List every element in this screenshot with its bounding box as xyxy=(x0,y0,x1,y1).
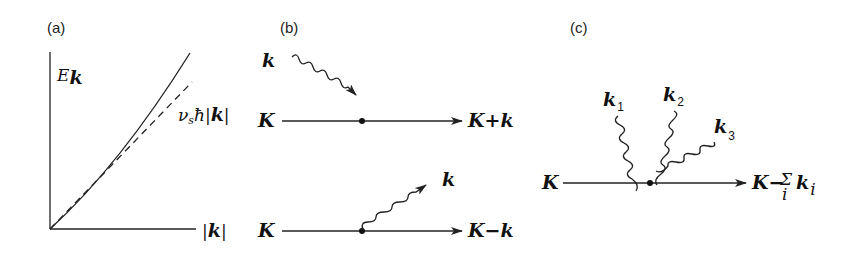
phonon-k2-wave xyxy=(656,111,677,185)
panel-b: (b) k K K+k K k K−k xyxy=(257,19,514,241)
electron-in-label: K xyxy=(257,219,276,241)
phonon-out-label: k xyxy=(442,168,455,190)
emission-vertex: K k K−k xyxy=(257,168,514,241)
phonon-k3-label: k3 xyxy=(714,115,735,143)
panel-a-label: (a) xyxy=(47,19,65,36)
asymptote-label: νsħ|k| xyxy=(178,103,230,127)
phonon-k2-label: k2 xyxy=(663,83,684,109)
phonon-in-wave xyxy=(292,55,356,95)
diagram-canvas: (a) Ek |k| νsħ|k| (b) k K K+k K k K−k xyxy=(0,0,854,259)
vertex-dot xyxy=(647,180,653,186)
phonon-out-wave xyxy=(362,185,426,230)
phonon-k1-label: k1 xyxy=(603,88,624,114)
electron-in-label: K xyxy=(541,171,560,193)
panel-b-label: (b) xyxy=(280,19,298,36)
panel-c-label: (c) xyxy=(570,19,588,36)
y-axis-label: Ek xyxy=(56,65,83,88)
panel-a: (a) Ek |k| νsħ|k| xyxy=(47,19,230,241)
linear-asymptote xyxy=(50,82,192,229)
sum-term: ki xyxy=(796,171,816,199)
vertex-dot xyxy=(359,118,365,124)
sum-index: i xyxy=(782,184,787,204)
absorption-vertex: k K K+k xyxy=(257,49,514,131)
electron-out-label: K+k xyxy=(467,109,514,131)
x-axis-label: |k| xyxy=(202,219,227,241)
panel-c: (c) K k1 k2 k3 K− Σ i ki xyxy=(541,19,816,204)
electron-in-label: K xyxy=(257,109,276,131)
phonon-k1-wave xyxy=(615,116,637,191)
electron-out-label: K−k xyxy=(467,219,514,241)
phonon-in-label: k xyxy=(262,49,275,71)
